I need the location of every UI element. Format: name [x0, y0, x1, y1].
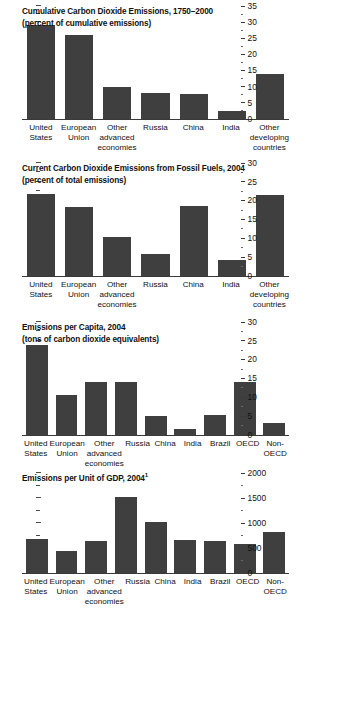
- axis-tick-label: 20: [248, 50, 257, 58]
- axis-tick-label: 5: [248, 98, 253, 106]
- axis-tick-label: 20: [248, 196, 257, 204]
- category-label-line: China: [151, 439, 179, 449]
- category-label-line: Union: [50, 587, 85, 597]
- axis-tick-label: 10: [248, 82, 257, 90]
- tick-mark: [241, 78, 243, 79]
- tick-mark: [241, 94, 243, 95]
- category-label-russia: Russia: [124, 439, 152, 469]
- category-label-other-advanced-economies: Otheradvancedeconomies: [85, 577, 124, 609]
- category-label-line: China: [151, 577, 179, 587]
- tick-mark: [241, 510, 243, 511]
- category-label-line: India: [212, 123, 250, 133]
- category-label-line: States: [22, 449, 50, 459]
- bar-european-union: [56, 551, 78, 573]
- category-label-line: economies: [97, 300, 136, 310]
- category-label-oecd: OECD: [234, 439, 262, 469]
- bar-united-states: [26, 539, 48, 573]
- category-label-line: Russia: [137, 280, 175, 290]
- tick-mark: [241, 110, 243, 111]
- bar-slot: [170, 473, 200, 573]
- tick-mark: [241, 523, 245, 524]
- category-label-line: Union: [50, 449, 85, 459]
- category-label-line: European: [50, 439, 85, 449]
- tick-mark: [241, 62, 243, 63]
- category-label-line: advanced: [85, 449, 124, 459]
- category-label-united-states: UnitedStates: [22, 577, 50, 609]
- category-label-line: Union: [60, 133, 98, 143]
- category-label-china: China: [151, 439, 179, 469]
- tick-mark: [241, 200, 245, 201]
- bar-european-union: [65, 35, 93, 119]
- axis-tick-label: 2000: [248, 468, 267, 476]
- category-label-european-union: EuropeanUnion: [50, 577, 85, 609]
- bar-brazil: [204, 415, 226, 435]
- tick-mark: [241, 573, 245, 574]
- chart-title-block: Emissions per Unit of GDP, 20041: [22, 473, 148, 485]
- tick-mark: [241, 498, 245, 499]
- category-label-line: Non-: [261, 439, 289, 449]
- axis-tick-label: 0: [248, 114, 253, 122]
- tick-mark: [241, 276, 245, 277]
- category-label-line: United: [22, 280, 60, 290]
- category-label-russia: Russia: [137, 123, 175, 160]
- category-label-line: States: [22, 290, 60, 300]
- category-label-line: advanced: [97, 290, 136, 300]
- category-label-china: China: [174, 280, 212, 317]
- category-label-india: India: [179, 577, 207, 609]
- figure-page: Cumulative Carbon Dioxide Emissions, 175…: [0, 6, 337, 713]
- bar-other-advanced-economies: [85, 541, 107, 574]
- category-label-line: developing: [250, 133, 289, 143]
- bar-slot: [52, 473, 82, 573]
- category-label-china: China: [174, 123, 212, 160]
- category-label-line: Russia: [124, 439, 152, 449]
- tick-mark: [241, 102, 245, 103]
- bar-european-union: [65, 207, 93, 276]
- category-label-line: India: [212, 280, 250, 290]
- bar-china: [180, 206, 208, 276]
- tick-mark: [241, 322, 245, 323]
- category-label-line: countries: [250, 300, 289, 310]
- chart-title: Emissions per Capita, 2004: [22, 322, 159, 334]
- bar-slot: [170, 322, 200, 435]
- bar-russia: [115, 382, 137, 435]
- category-label-line: States: [22, 133, 60, 143]
- tick-mark: [241, 257, 245, 258]
- category-label-line: OECD: [234, 439, 262, 449]
- category-label-line: European: [60, 280, 98, 290]
- axis-tick-label: 30: [248, 158, 257, 166]
- category-label-line: United: [22, 577, 50, 587]
- axis-tick-label: 15: [248, 66, 257, 74]
- category-label-united-states: UnitedStates: [22, 123, 60, 160]
- axis-tick-label: 15: [248, 215, 257, 223]
- tick-mark: [241, 219, 245, 220]
- tick-mark: [241, 535, 243, 536]
- axis-tick-label: 1000: [248, 518, 267, 526]
- tick-mark: [241, 30, 243, 31]
- category-label-line: economies: [85, 459, 124, 469]
- bar-slot: [81, 473, 111, 573]
- tick-mark: [241, 397, 245, 398]
- chart-panel-emissions-per-capita: Emissions per Capita, 2004(tons of carbo…: [0, 322, 337, 469]
- axis-tick-label: 25: [248, 34, 257, 42]
- plot-area-emissions-per-unit-gdp: 0500100015002000: [22, 473, 289, 574]
- category-label-other-developing-countries: Otherdevelopingcountries: [250, 280, 289, 317]
- chart-subtitle: (percent of total emissions): [22, 175, 245, 187]
- category-label-line: OECD: [234, 577, 262, 587]
- bar-slot: [111, 473, 141, 573]
- category-label-line: economies: [97, 143, 136, 153]
- chart-title: Current Carbon Dioxide Emissions from Fo…: [22, 163, 245, 175]
- axis-tick-label: 15: [248, 374, 257, 382]
- tick-mark: [241, 378, 245, 379]
- category-label-other-developing-countries: Otherdevelopingcountries: [250, 123, 289, 160]
- category-label-line: Non-: [261, 577, 289, 587]
- bar-other-advanced-economies: [103, 237, 131, 276]
- axis-tick-label: 30: [248, 317, 257, 325]
- category-label-other-advanced-economies: Otheradvancedeconomies: [97, 123, 136, 160]
- right-value-axis: 0500100015002000: [241, 473, 289, 573]
- right-value-axis: 051015202530: [241, 163, 289, 276]
- category-label-india: India: [212, 123, 250, 160]
- axis-tick-label: 10: [248, 393, 257, 401]
- bar-brazil: [204, 541, 226, 573]
- chart-title: Emissions per Unit of GDP, 20041: [22, 473, 148, 485]
- chart-panel-emissions-per-unit-gdp: Emissions per Unit of GDP, 2004105001000…: [0, 473, 337, 609]
